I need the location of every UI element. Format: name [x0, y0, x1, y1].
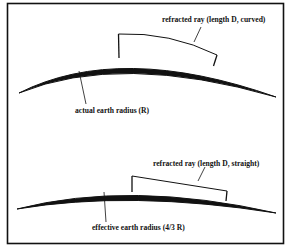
earth-label-actual: actual earth radius (R) — [75, 106, 150, 115]
panel-effective-earth: refracted ray (length D, straight) effec… — [17, 159, 276, 232]
panel-actual-earth: refracted ray (length D, curved) actual … — [19, 15, 276, 115]
transmitter-mast — [119, 34, 120, 58]
ray-label-leader — [198, 167, 205, 181]
refracted-ray-straight — [132, 176, 227, 191]
earth-surface-effective — [17, 195, 276, 213]
earth-label-effective: effective earth radius (4/3 R) — [92, 223, 185, 232]
receiver-mast — [214, 55, 218, 66]
ray-label-leader — [194, 27, 201, 42]
receiver-mast — [226, 191, 227, 201]
refracted-ray-curved — [119, 34, 218, 55]
earth-surface-actual — [19, 68, 276, 97]
ray-label-curved: refracted ray (length D, curved) — [162, 15, 266, 24]
refraction-diagram: refracted ray (length D, curved) actual … — [0, 0, 288, 248]
ray-label-straight: refracted ray (length D, straight) — [153, 159, 260, 168]
